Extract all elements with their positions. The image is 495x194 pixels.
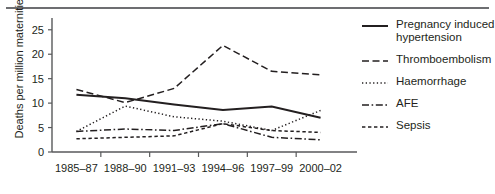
y-tick-label: 25 xyxy=(32,24,44,36)
dash-dot-line-icon xyxy=(362,98,388,111)
legend-item[interactable]: Sepsis xyxy=(362,119,495,132)
x-tick-label: 2000–02 xyxy=(299,162,342,174)
x-tick-label: 1997–99 xyxy=(250,162,293,174)
line-chart-svg: 05101520251985–871988–901991–931994–9619… xyxy=(0,0,360,194)
legend-item-label: Sepsis xyxy=(396,119,431,132)
x-tick-label: 1991–93 xyxy=(153,162,196,174)
x-tick-label: 1994–96 xyxy=(202,162,245,174)
dotted-line-icon xyxy=(362,76,388,89)
y-tick-label: 5 xyxy=(38,122,44,134)
series-line xyxy=(76,124,320,139)
legend-item-label: Pregnancy induced hypertension xyxy=(396,18,495,44)
legend-item-label: Haemorrhage xyxy=(396,75,466,88)
y-tick-label: 0 xyxy=(38,146,44,158)
short-dash-line-icon xyxy=(362,120,388,133)
y-tick-label: 20 xyxy=(32,48,44,60)
y-tick-label: 15 xyxy=(32,73,44,85)
x-tick-label: 1988–90 xyxy=(104,162,147,174)
dashed-line-icon xyxy=(362,54,388,67)
y-tick-label: 10 xyxy=(32,97,44,109)
chart-legend: Pregnancy induced hypertensionThromboemb… xyxy=(362,18,495,141)
plot-area: 05101520251985–871988–901991–931994–9619… xyxy=(0,0,360,194)
legend-item-label: AFE xyxy=(396,97,418,110)
chart-figure: Deaths per million maternities 051015202… xyxy=(0,0,495,194)
legend-item-label: Thromboembolism xyxy=(396,53,491,66)
legend-item[interactable]: Pregnancy induced hypertension xyxy=(362,18,495,44)
series-line xyxy=(76,45,320,102)
series-line xyxy=(76,95,320,118)
x-tick-label: 1985–87 xyxy=(55,162,98,174)
solid-line-icon xyxy=(362,19,388,32)
legend-item[interactable]: Thromboembolism xyxy=(362,53,495,66)
legend-item[interactable]: AFE xyxy=(362,97,495,110)
legend-item[interactable]: Haemorrhage xyxy=(362,75,495,88)
